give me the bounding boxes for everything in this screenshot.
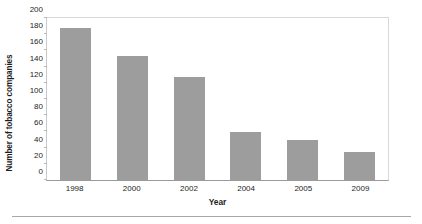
- x-axis-tick-label: 1998: [46, 183, 103, 195]
- x-axis-tick-label: 2000: [103, 183, 160, 195]
- y-axis-tick-label: 60: [3, 119, 43, 127]
- y-axis-tick-label: 160: [3, 38, 43, 46]
- y-axis-tick-label: 100: [3, 87, 43, 95]
- bar-2002[interactable]: [174, 77, 205, 180]
- y-axis-tick-label: 140: [3, 55, 43, 63]
- bar-2005[interactable]: [287, 140, 318, 180]
- y-axis-tick-label: 120: [3, 71, 43, 79]
- y-axis-tick-label: 180: [3, 22, 43, 30]
- x-axis-tick-label: 2009: [332, 183, 389, 195]
- bar-1998[interactable]: [60, 28, 91, 180]
- bar-slot: [161, 18, 218, 180]
- bar-2009[interactable]: [344, 152, 375, 180]
- y-axis-tick-label: 200: [3, 6, 43, 14]
- y-axis-tick-label: 80: [3, 103, 43, 111]
- bar-slot: [274, 18, 331, 180]
- bar-chart-figure: Number of tobacco companies 020406080100…: [0, 0, 422, 224]
- plot-area: 020406080100120140160180200: [46, 17, 389, 181]
- y-axis-tick-label: 20: [3, 152, 43, 160]
- bar-slot: [331, 18, 388, 180]
- bar-series: [47, 18, 388, 180]
- bar-2004[interactable]: [230, 132, 261, 180]
- y-axis-tick-label: 0: [3, 168, 43, 176]
- y-axis-tick-label: 40: [3, 136, 43, 144]
- bar-slot: [47, 18, 104, 180]
- x-axis-tick-labels: 199820002002200420052009: [46, 183, 389, 195]
- x-axis-tick-label: 2002: [160, 183, 217, 195]
- bar-slot: [217, 18, 274, 180]
- x-axis-title: Year: [46, 196, 389, 208]
- bar-2000[interactable]: [117, 56, 148, 180]
- x-axis-tick-label: 2004: [218, 183, 275, 195]
- bar-slot: [104, 18, 161, 180]
- bottom-divider: [12, 216, 411, 217]
- x-axis-tick-label: 2005: [275, 183, 332, 195]
